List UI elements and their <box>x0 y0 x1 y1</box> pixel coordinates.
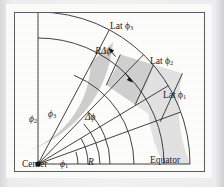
radial-phi2 <box>38 86 168 164</box>
arc-angle-small-2 <box>81 139 88 165</box>
label-radius-r: R <box>88 158 94 168</box>
label-center: Center <box>22 160 47 170</box>
label-lat-phi2: Lat ϕ2 <box>150 57 173 67</box>
label-lat-phi1: Lat ϕ1 <box>163 91 186 101</box>
label-angle-phi3: ϕ3 <box>48 110 56 120</box>
label-angle-phi1: ϕ1 <box>60 160 68 170</box>
shaded-cell-upper <box>24 42 113 152</box>
label-delta-phi: Δϕ <box>85 113 96 123</box>
label-angle-phi2: ϕ2 <box>29 115 37 125</box>
label-arc-length-r-delta-phi: RΔϕ <box>95 47 111 57</box>
figure-root: Lat ϕ3 Lat ϕ2 Lat ϕ1 RΔϕ Δϕ ϕ2 ϕ3 ϕ1 Cen… <box>0 0 224 187</box>
label-lat-phi3: Lat ϕ3 <box>110 22 133 32</box>
arc-angle-small-1 <box>76 152 78 164</box>
label-equator: Equator <box>150 156 180 166</box>
